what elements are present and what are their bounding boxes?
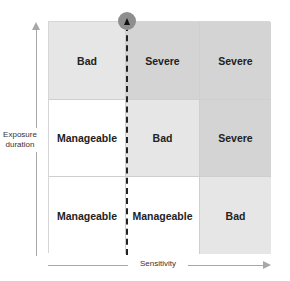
cell-r3-c1: Manageable xyxy=(49,177,126,254)
threshold-dashed-line xyxy=(126,25,128,255)
cell-r1-c1: Bad xyxy=(49,22,126,100)
x-axis-label: Sensitivity xyxy=(128,259,188,268)
cell-r2-c3: Severe xyxy=(200,100,271,177)
x-axis-arrowhead-icon xyxy=(263,261,271,269)
cell-r1-c2: Severe xyxy=(126,22,200,100)
x-axis-line-left xyxy=(48,265,128,266)
cell-r2-c1: Manageable xyxy=(49,100,126,177)
position-marker-icon xyxy=(118,12,136,30)
cell-r3-c3: Bad xyxy=(200,177,271,254)
y-axis-label-line-2: duration xyxy=(2,140,38,150)
cell-r3-c2: Manageable xyxy=(126,177,200,254)
cell-r2-c2: Bad xyxy=(126,100,200,177)
y-axis-label: Exposure duration xyxy=(2,128,38,152)
y-axis-label-line-1: Exposure xyxy=(2,130,38,140)
cell-r1-c3: Severe xyxy=(200,22,271,100)
x-axis-line-right xyxy=(188,265,263,266)
risk-matrix-grid: Bad Severe Severe Manageable Bad Severe … xyxy=(48,21,270,253)
up-triangle-icon xyxy=(124,18,130,25)
